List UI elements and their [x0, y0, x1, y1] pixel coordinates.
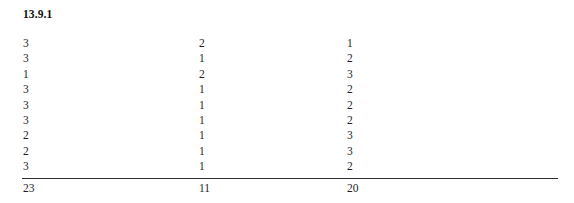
summation-rule: [22, 178, 558, 179]
table-cell-column-1: 2: [23, 128, 29, 143]
table-cell-column-2: 1: [199, 51, 205, 66]
table-cell-column-1: 1: [23, 67, 29, 82]
table-cell-column-3: 2: [347, 51, 353, 66]
table-row: 2 1 3: [0, 128, 574, 143]
table-cell-column-2: 1: [199, 98, 205, 113]
table-cell-column-1: 3: [23, 51, 29, 66]
table-cell-column-2: 2: [199, 67, 205, 82]
table-cell-column-2: 1: [199, 144, 205, 159]
table-cell-column-1: 2: [23, 144, 29, 159]
document-page: 13.9.1 3 2 1 3 1 2 1 2 3 3 1 2 3 1 2 3: [0, 0, 574, 203]
table-cell-column-1: 3: [23, 113, 29, 128]
table-cell-column-3: 2: [347, 98, 353, 113]
table-cell-column-3: 3: [347, 144, 353, 159]
totals-row: 23 11 20: [0, 181, 574, 196]
table-cell-column-3: 3: [347, 128, 353, 143]
table-cell-column-2: 1: [199, 113, 205, 128]
table-row: 3 1 2: [0, 98, 574, 113]
total-column-2: 11: [199, 181, 210, 196]
table-cell-column-2: 1: [199, 82, 205, 97]
table-cell-column-3: 2: [347, 82, 353, 97]
table-row: 3 1 2: [0, 51, 574, 66]
table-cell-column-3: 2: [347, 159, 353, 174]
table-cell-column-2: 2: [199, 36, 205, 51]
table-row: 3 2 1: [0, 36, 574, 51]
table-cell-column-1: 3: [23, 82, 29, 97]
table-row: 2 1 3: [0, 144, 574, 159]
table-cell-column-1: 3: [23, 159, 29, 174]
table-row: 3 1 2: [0, 113, 574, 128]
section-heading: 13.9.1: [23, 8, 52, 20]
table-cell-column-2: 1: [199, 159, 205, 174]
table-cell-column-1: 3: [23, 36, 29, 51]
table-cell-column-1: 3: [23, 98, 29, 113]
table-cell-column-3: 3: [347, 67, 353, 82]
total-column-1: 23: [23, 181, 35, 196]
table-row: 1 2 3: [0, 67, 574, 82]
table-row: 3 1 2: [0, 82, 574, 97]
total-column-3: 20: [347, 181, 359, 196]
table-cell-column-3: 1: [347, 36, 353, 51]
table-cell-column-3: 2: [347, 113, 353, 128]
value-table: 3 2 1 3 1 2 1 2 3 3 1 2 3 1 2 3 1 2: [0, 36, 574, 175]
table-cell-column-2: 1: [199, 128, 205, 143]
table-row: 3 1 2: [0, 159, 574, 174]
